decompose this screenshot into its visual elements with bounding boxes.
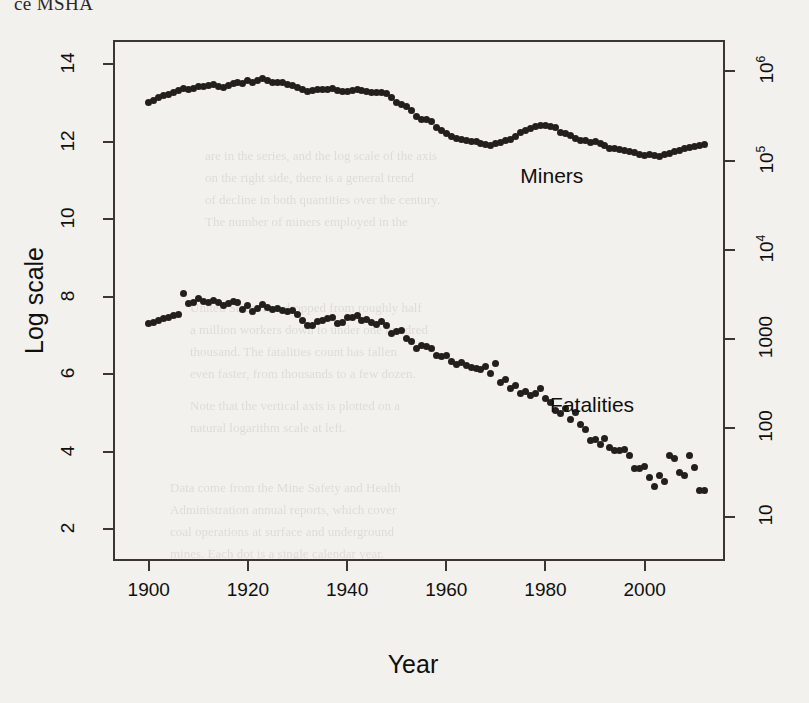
- data-point-fatalities: [487, 370, 494, 377]
- x-axis-tick: [544, 560, 546, 571]
- x-axis-tick-label: 2000: [613, 579, 677, 601]
- data-point-fatalities: [175, 311, 182, 318]
- y-axis-tick-label-left: 8: [57, 276, 79, 316]
- y-axis-tick-label-right: 100: [755, 400, 777, 452]
- y-axis-tick-left: [103, 296, 114, 298]
- y-axis-tick-left: [103, 451, 114, 453]
- data-point-fatalities: [641, 463, 648, 470]
- y-axis-tick-left: [103, 63, 114, 65]
- y-axis-tick-label-left: 14: [57, 43, 79, 83]
- x-axis-tick: [644, 560, 646, 571]
- y-axis-tick-left: [103, 218, 114, 220]
- x-axis-tick-label: 1900: [117, 579, 181, 601]
- plot-frame-right: [723, 40, 725, 561]
- y-axis-tick-label-left: 4: [57, 431, 79, 471]
- y-axis-tick-right: [724, 160, 735, 162]
- plot-frame-top: [113, 40, 725, 42]
- data-point-fatalities: [671, 455, 678, 462]
- data-point-fatalities: [661, 478, 668, 485]
- y-axis-tick-left: [103, 141, 114, 143]
- series-label-fatalities: Fatalities: [550, 393, 634, 417]
- data-point-miners: [701, 141, 708, 148]
- data-point-fatalities: [502, 376, 509, 383]
- y-axis-tick-right: [724, 249, 735, 251]
- data-point-fatalities: [234, 299, 241, 306]
- x-axis-tick-label: 1960: [414, 579, 478, 601]
- data-point-fatalities: [408, 338, 415, 345]
- data-point-fatalities: [646, 474, 653, 481]
- y-axis-tick-label-left: 10: [57, 198, 79, 238]
- data-point-fatalities: [428, 345, 435, 352]
- y-axis-tick-label-left: 6: [57, 353, 79, 393]
- y-axis-tick-right: [724, 427, 735, 429]
- data-point-fatalities: [651, 483, 658, 490]
- data-point-fatalities: [180, 290, 187, 297]
- x-axis-tick: [247, 560, 249, 571]
- data-point-fatalities: [601, 435, 608, 442]
- data-point-fatalities: [482, 363, 489, 370]
- series-label-miners: Miners: [520, 164, 583, 188]
- y-axis-tick-right: [724, 338, 735, 340]
- y-axis-tick-label-right: 104: [754, 222, 777, 274]
- y-axis-tick-label-right: 105: [754, 133, 777, 185]
- data-point-fatalities: [626, 452, 633, 459]
- data-point-fatalities: [398, 327, 405, 334]
- y-axis-tick-label-right: 1000: [755, 311, 777, 363]
- data-point-fatalities: [383, 322, 390, 329]
- data-point-fatalities: [537, 385, 544, 392]
- data-point-fatalities: [691, 464, 698, 471]
- y-axis-tick-right: [724, 516, 735, 518]
- data-point-fatalities: [339, 319, 346, 326]
- data-point-fatalities: [681, 472, 688, 479]
- x-axis-tick-label: 1940: [315, 579, 379, 601]
- data-point-fatalities: [701, 487, 708, 494]
- y-axis-tick-label-right: 106: [754, 44, 777, 96]
- data-point-fatalities: [567, 416, 574, 423]
- data-point-fatalities: [582, 426, 589, 433]
- y-axis-tick-label-left: 2: [57, 508, 79, 548]
- data-point-fatalities: [686, 452, 693, 459]
- data-point-fatalities: [512, 382, 519, 389]
- y-axis-tick-left: [103, 373, 114, 375]
- x-axis-tick: [346, 560, 348, 571]
- x-axis-tick: [148, 560, 150, 571]
- x-axis-tick-label: 1980: [513, 579, 577, 601]
- y-axis-tick-label-left: 12: [57, 121, 79, 161]
- x-axis-tick: [445, 560, 447, 571]
- y-axis-tick-label-right: 10: [755, 489, 777, 541]
- plot-frame-left: [113, 40, 115, 561]
- y-axis-tick-right: [724, 70, 735, 72]
- y-axis-label: Log scale: [20, 221, 49, 381]
- chart-plot-area: Log scale Year 2468101214101001000104105…: [0, 0, 809, 703]
- x-axis-tick-label: 1920: [216, 579, 280, 601]
- x-axis-label: Year: [313, 650, 513, 679]
- plot-frame-bottom: [113, 559, 725, 561]
- y-axis-tick-left: [103, 528, 114, 530]
- data-point-fatalities: [492, 360, 499, 367]
